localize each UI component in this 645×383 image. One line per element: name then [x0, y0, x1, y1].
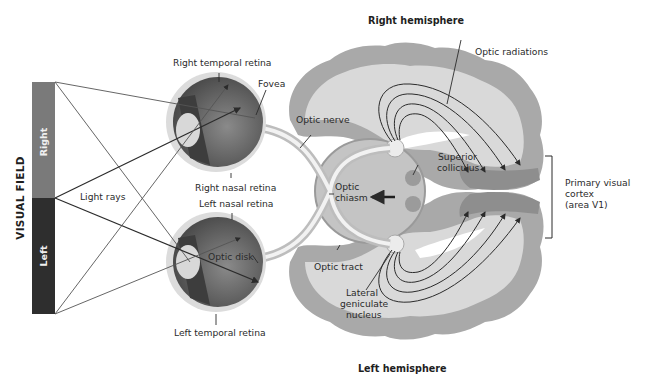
label-fovea: Fovea — [258, 78, 285, 89]
label-light-rays: Light rays — [80, 191, 126, 202]
visual-field-bar: Right Left VISUAL FIELD — [14, 82, 55, 314]
label-optic-radiations: Optic radiations — [475, 46, 548, 57]
label-left-nasal-retina: Left nasal retina — [199, 198, 273, 209]
label-superior-colliculus-1: Superior — [438, 151, 477, 162]
label-lgn-3: nucleus — [346, 309, 382, 320]
label-optic-nerve: Optic nerve — [296, 114, 350, 125]
label-optic-disk: Optic disk — [208, 251, 254, 262]
label-v1-1: Primary visual — [565, 177, 630, 188]
right-eye — [166, 72, 266, 172]
label-lgn-2: geniculate — [340, 298, 389, 309]
visual-field-left-label: Left — [38, 245, 49, 267]
right-lens — [176, 113, 200, 147]
right-hemisphere-title: Right hemisphere — [368, 15, 465, 26]
left-hemisphere-title: Left hemisphere — [358, 363, 447, 374]
label-optic-chiasm-2: chiasm — [335, 192, 368, 203]
label-right-nasal-retina: Right nasal retina — [195, 182, 276, 193]
label-right-temporal-retina: Right temporal retina — [173, 57, 272, 68]
label-optic-chiasm-1: Optic — [335, 181, 359, 192]
label-lgn-1: Lateral — [346, 287, 378, 298]
label-v1-2: cortex — [565, 188, 595, 199]
label-optic-tract: Optic tract — [314, 261, 363, 272]
superior-colliculus-top — [405, 170, 421, 186]
label-left-temporal-retina: Left temporal retina — [174, 327, 266, 338]
v1-bracket — [545, 156, 552, 238]
superior-colliculus-bottom — [405, 196, 421, 212]
visual-field-title: VISUAL FIELD — [14, 156, 26, 240]
label-superior-colliculus-2: colliculus — [437, 162, 480, 173]
label-v1-3: (area V1) — [565, 199, 608, 210]
visual-pathway-diagram: Right Left VISUAL FIELD — [0, 0, 645, 383]
visual-field-right-label: Right — [38, 127, 49, 156]
